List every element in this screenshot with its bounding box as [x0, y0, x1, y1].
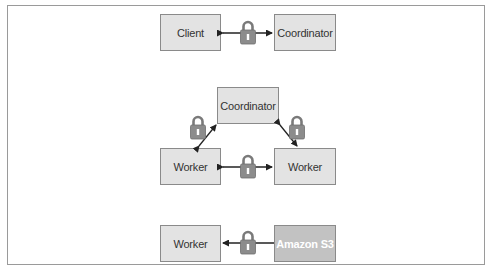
lock-icon — [240, 229, 256, 255]
amazon-s3-node: Amazon S3 — [274, 225, 336, 262]
coordinator-node-top: Coordinator — [274, 14, 336, 51]
lock-icon — [240, 19, 256, 45]
coordinator-node-middle: Coordinator — [217, 87, 279, 124]
worker-node-left: Worker — [160, 148, 221, 185]
lock-icon — [289, 114, 305, 140]
lock-icon — [240, 153, 256, 179]
client-node: Client — [160, 14, 221, 51]
worker-node-right: Worker — [274, 148, 336, 185]
worker-node-bottom: Worker — [160, 225, 221, 262]
lock-icon — [190, 114, 206, 140]
